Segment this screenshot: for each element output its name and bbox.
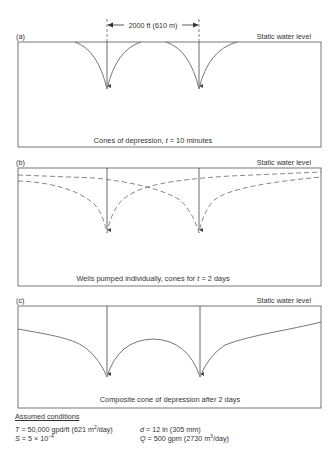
panel-b-frame bbox=[18, 168, 321, 286]
well-spacing-dimension: 2000 ft (610 m) bbox=[107, 19, 199, 42]
assumed-conditions-title: Assumed conditions bbox=[15, 413, 79, 422]
assumed-conditions-left: T = 50,000 gpd/ft (621 m2/day) S = 5 × 1… bbox=[15, 426, 113, 443]
storativity-line: S = 5 × 10−4 bbox=[15, 435, 113, 444]
panel-a-cone-1 bbox=[75, 42, 141, 89]
panel-a-tag: (a) bbox=[16, 32, 25, 41]
dimension-label: 2000 ft (610 m) bbox=[129, 21, 178, 30]
panel-b-tag: (b) bbox=[16, 158, 25, 167]
panel-c-frame bbox=[18, 306, 321, 408]
panel-c-tag: (c) bbox=[16, 296, 24, 305]
panel-c-static-water-level-label: Static water level bbox=[257, 296, 312, 305]
panel-a-frame bbox=[18, 42, 321, 147]
cone-of-depression-figure: 2000 ft (610 m) (a) Static water level C… bbox=[0, 0, 334, 452]
panel-c-caption: Composite cone of depression after 2 day… bbox=[100, 395, 241, 404]
panel-a-cone-2 bbox=[166, 42, 237, 89]
panel-b-static-water-level-label: Static water level bbox=[257, 158, 312, 167]
assumed-conditions-right: d = 12 in (305 mm) Q = 500 gpm (2730 m3/… bbox=[140, 426, 229, 443]
panel-a-static-water-level-label: Static water level bbox=[257, 32, 312, 41]
panel-b-cone-well-2 bbox=[18, 175, 321, 233]
panel-a: (a) Static water level Cones of depressi… bbox=[16, 32, 321, 147]
panel-c: (c) Static water level Composite cone of… bbox=[16, 296, 321, 408]
panel-b: (b) Static water level Wells pumped indi… bbox=[16, 158, 321, 286]
panel-a-caption: Cones of depression, t = 10 minutes bbox=[94, 136, 213, 145]
panel-c-composite-cone bbox=[18, 322, 321, 377]
panel-b-cone-well-1 bbox=[18, 172, 321, 233]
discharge-line: Q = 500 gpm (2730 m3/day) bbox=[140, 435, 229, 444]
panel-b-caption: Wells pumped individually, cones for t =… bbox=[76, 274, 229, 283]
